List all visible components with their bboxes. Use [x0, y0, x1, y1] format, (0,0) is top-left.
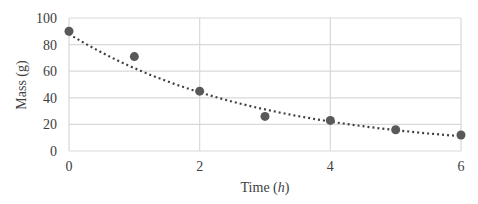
data-point: [261, 112, 270, 121]
x-tick-label: 4: [327, 159, 334, 174]
x-tick-label: 2: [196, 159, 203, 174]
y-tick-label: 40: [43, 91, 57, 106]
y-tick-label: 0: [50, 144, 57, 159]
data-point: [130, 52, 139, 61]
data-point: [391, 125, 400, 134]
data-point: [457, 131, 466, 140]
y-tick-label: 80: [43, 38, 57, 53]
scatter-chart: 020406080100 0246 Mass (g) Time (h): [0, 0, 478, 204]
data-point: [65, 27, 74, 36]
data-points: [65, 27, 466, 140]
y-axis-ticks: 020406080100: [36, 11, 57, 159]
gridlines: [69, 18, 461, 151]
y-tick-label: 20: [43, 117, 57, 132]
data-point: [195, 87, 204, 96]
y-tick-label: 100: [36, 11, 57, 26]
x-tick-label: 0: [66, 159, 73, 174]
x-axis-title: Time (h): [241, 180, 290, 196]
x-tick-label: 6: [458, 159, 465, 174]
x-axis-ticks: 0246: [66, 159, 465, 174]
y-tick-label: 60: [43, 64, 57, 79]
data-point: [326, 116, 335, 125]
y-axis-title: Mass (g): [14, 60, 30, 110]
